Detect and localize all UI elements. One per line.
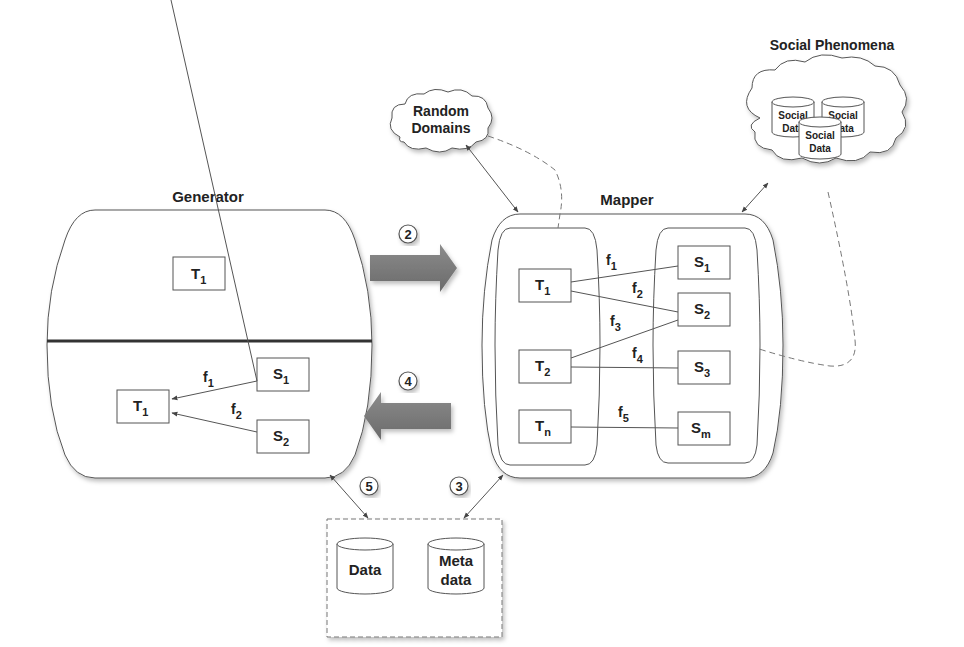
step-4-backward-arrow: 4 [364, 372, 451, 440]
random-domains-link [466, 145, 518, 212]
social-phenomena-cloud: Social Phenomena Social Data Social Data… [747, 37, 907, 163]
data-db: Data [337, 538, 393, 594]
right-arrow-icon [370, 244, 457, 292]
left-arrow-icon [364, 392, 451, 440]
svg-text:5: 5 [365, 479, 372, 494]
mapper-node-tn: Tn [519, 410, 571, 443]
generator-container [47, 210, 372, 478]
svg-text:Meta: Meta [439, 552, 474, 569]
mapper-panel: Mapper T1 T2 Tn S1 S2 S3 Sm f1 f2 f3 f [482, 191, 783, 478]
svg-text:data: data [441, 571, 473, 588]
step-3-badge: 3 [450, 477, 468, 495]
svg-text:Social: Social [805, 130, 835, 141]
random-domains-cloud: Random Domains [390, 89, 492, 152]
generator-target-node-t1: T1 [117, 390, 169, 423]
svg-text:Domains: Domains [411, 120, 470, 136]
mapper-node-s2: S2 [678, 293, 730, 326]
svg-text:2: 2 [404, 227, 411, 242]
svg-text:4: 4 [404, 374, 412, 389]
social-phenomena-link [742, 183, 768, 212]
step-5-badge: 5 [360, 477, 378, 495]
architecture-diagram: Generator T1 T1 S1 S2 f1 f2 2 [0, 0, 964, 647]
mapper-node-t1: T1 [519, 269, 571, 302]
social-phenomena-title: Social Phenomena [770, 37, 895, 53]
mapper-node-s3: S3 [678, 351, 730, 384]
step-2-forward-arrow: 2 [370, 225, 457, 292]
step-3-link [464, 475, 503, 518]
svg-text:Data: Data [349, 561, 382, 578]
svg-text:Data: Data [809, 143, 831, 154]
social-data-db-3: Social Data [799, 117, 841, 159]
generator-source-node-s2: S2 [257, 420, 309, 453]
generator-panel: Generator T1 T1 S1 S2 f1 f2 [47, 0, 372, 478]
mapper-node-s1: S1 [678, 246, 730, 279]
storage-panel: Data Meta data [327, 519, 502, 637]
generator-title: Generator [172, 188, 244, 205]
mapper-title: Mapper [600, 191, 654, 208]
generator-source-node-s1: S1 [257, 358, 309, 391]
mapper-node-sm: Sm [678, 412, 730, 445]
generator-top-node-t1: T1 [173, 257, 225, 290]
svg-text:Random: Random [413, 103, 469, 119]
metadata-db: Meta data [428, 538, 484, 594]
mapper-node-t2: T2 [519, 350, 571, 383]
svg-text:3: 3 [455, 479, 462, 494]
